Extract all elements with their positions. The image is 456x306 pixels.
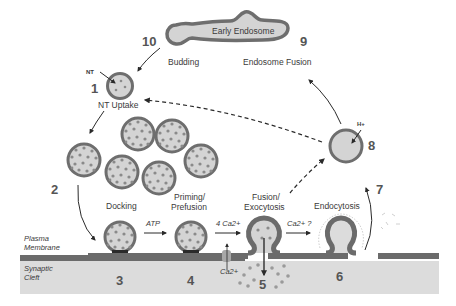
four-calcium-label: 4 Ca2+ [216, 219, 241, 228]
step-10: 10 [142, 34, 156, 49]
priming-label-line2: Prefusion [171, 202, 207, 212]
vesicle-step-4 [176, 222, 206, 253]
plasma-membrane-label-line1: Plasma [24, 234, 49, 243]
calcium-channel-label: Ca2+ [220, 267, 239, 276]
vesicle-step-3 [105, 222, 135, 253]
calcium-question-label: Ca2+ ? [287, 219, 312, 228]
fusion-label-line2: Exocytosis [244, 202, 285, 212]
atp-label: ATP [145, 219, 160, 228]
budding-label: Budding [168, 57, 199, 67]
step-6: 6 [336, 269, 343, 284]
endocytosis-label: Endocytosis [314, 201, 360, 211]
step-2: 2 [51, 182, 58, 197]
vesicle-step-2 [68, 144, 100, 176]
synaptic-vesicle-cycle-diagram: Early Endosome Budding Endosome Fusion 1… [0, 0, 456, 306]
step-8: 8 [368, 138, 375, 153]
docking-label: Docking [106, 201, 137, 211]
plasma-membrane-label-line2: Membrane [24, 243, 60, 252]
synaptic-cleft [20, 261, 439, 294]
nt-label: NT [86, 69, 94, 75]
step-1: 1 [91, 81, 98, 96]
vesicle-pool [106, 118, 217, 194]
endosome-fusion-label: Endosome Fusion [243, 57, 312, 67]
fusion-label-line1: Fusion/ [252, 192, 281, 202]
early-endosome-label: Early Endosome [212, 26, 275, 36]
proton-label: H+ [357, 121, 365, 127]
synaptic-cleft-label-line2: Cleft [24, 273, 40, 282]
early-endosome: Early Endosome [167, 12, 288, 44]
step-3: 3 [116, 273, 123, 288]
clathrin-fragments [381, 213, 400, 229]
synaptic-cleft-label-line1: Synaptic [24, 264, 53, 273]
step-5: 5 [259, 277, 266, 292]
step-7: 7 [376, 182, 383, 197]
nt-uptake-label: NT Uptake [98, 100, 139, 110]
calcium-channel [222, 250, 231, 262]
step-9: 9 [300, 34, 307, 49]
endocytic-pit-step-6 [319, 214, 364, 253]
step-4: 4 [187, 273, 195, 288]
priming-label-line1: Priming/ [174, 192, 206, 202]
vesicle-step-1 [108, 74, 133, 99]
